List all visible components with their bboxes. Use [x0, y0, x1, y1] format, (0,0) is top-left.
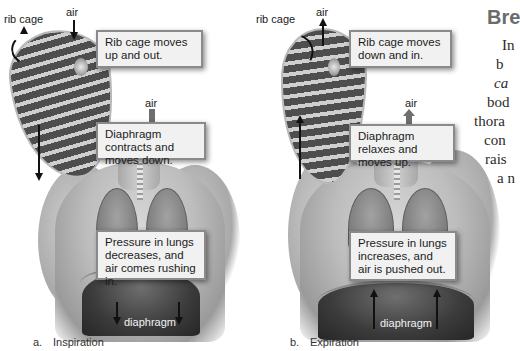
callout-pressure: Pressure in lungs increases, and air is …	[349, 231, 457, 281]
body-text-line: bod	[487, 93, 510, 111]
body-text-line: b	[496, 55, 504, 73]
shoulder-joint	[74, 58, 88, 76]
diaphragm-right-down-arrow-icon	[175, 317, 183, 325]
rib-down-arrow-icon	[35, 173, 43, 181]
caption-inspiration: a.Inspiration	[33, 336, 104, 348]
caption-letter: a.	[33, 336, 53, 348]
body-text-line: In	[502, 36, 515, 54]
air-top-label: air	[316, 6, 328, 18]
diaphragm-left-down-arrow-icon	[113, 317, 121, 325]
rib-cage-label: rib cage	[256, 13, 295, 25]
body-text-line: thora	[474, 112, 505, 130]
shoulder-joint	[328, 58, 340, 76]
air-down-arrow-icon	[70, 32, 78, 40]
diaphragm-label: diaphragm	[124, 316, 176, 328]
diaphragm-right-arrow-shaft	[436, 295, 438, 329]
rib-cage-arrow-head-icon	[20, 26, 28, 34]
caption-letter: b.	[290, 336, 310, 348]
caption-expiration: b.Expiration	[290, 336, 359, 348]
air-top-label: air	[66, 6, 78, 18]
callout-diaphragm: Diaphragm relaxes and moves up.	[349, 124, 455, 162]
rib-down-arrow-shaft	[38, 125, 40, 175]
diaphragm-left-arrow-shaft	[373, 295, 375, 329]
section-heading: Bre	[487, 6, 520, 29]
air-mid-label: air	[145, 97, 157, 109]
callout-rib-cage: Rib cage moves down and in.	[349, 30, 452, 68]
air-mid-label: air	[405, 97, 417, 109]
callout-pressure: Pressure in lungs decreases, and air com…	[96, 230, 206, 280]
rib-up-arrow-shaft	[299, 121, 301, 179]
body-text-line: a n	[497, 169, 515, 187]
diaphragm-left-arrow-shaft	[116, 302, 118, 318]
diaphragm-label: diaphragm	[380, 317, 432, 329]
air-up-arrow-shaft	[322, 24, 324, 46]
caption-label: Expiration	[310, 336, 359, 348]
body-text-line: rais	[485, 150, 507, 168]
callout-rib-cage: Rib cage moves up and out.	[96, 30, 203, 68]
caption-label: Inspiration	[53, 336, 104, 348]
panel-expiration: rib cage air air Rib cage moves down and…	[250, 0, 514, 351]
body-text-line: ca	[494, 74, 508, 92]
diaphragm-right-arrow-shaft	[178, 302, 180, 318]
rib-cage-label: rib cage	[4, 13, 43, 25]
callout-diaphragm: Diaphragm contracts and moves down.	[96, 122, 206, 160]
panel-inspiration: rib cage air air Rib cage moves up and o…	[0, 0, 255, 351]
body-text-line: con	[484, 131, 506, 149]
